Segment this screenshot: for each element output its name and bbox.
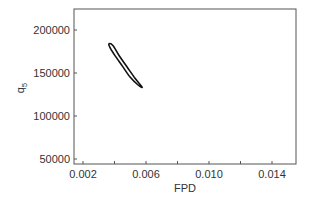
y-axis-ticks: 50000100000150000200000: [33, 24, 77, 165]
y-tick-label: 150000: [33, 67, 70, 79]
x-axis-label: FPD: [174, 182, 196, 194]
x-tick-label: 0.010: [195, 168, 223, 180]
x-tick-label: 0.002: [69, 168, 97, 180]
y-tick-label: 50000: [39, 153, 70, 165]
x-tick-label: 0.014: [258, 168, 286, 180]
y-axis-label: q5: [14, 82, 29, 93]
plot-frame: [74, 9, 296, 164]
y-tick-label: 100000: [33, 110, 70, 122]
chart: 0.0020.0060.0100.014 5000010000015000020…: [0, 0, 314, 202]
contour-curve: [109, 44, 142, 88]
y-axis-label-subscript: 5: [20, 82, 29, 87]
y-tick-label: 200000: [33, 24, 70, 36]
x-tick-label: 0.006: [132, 168, 160, 180]
